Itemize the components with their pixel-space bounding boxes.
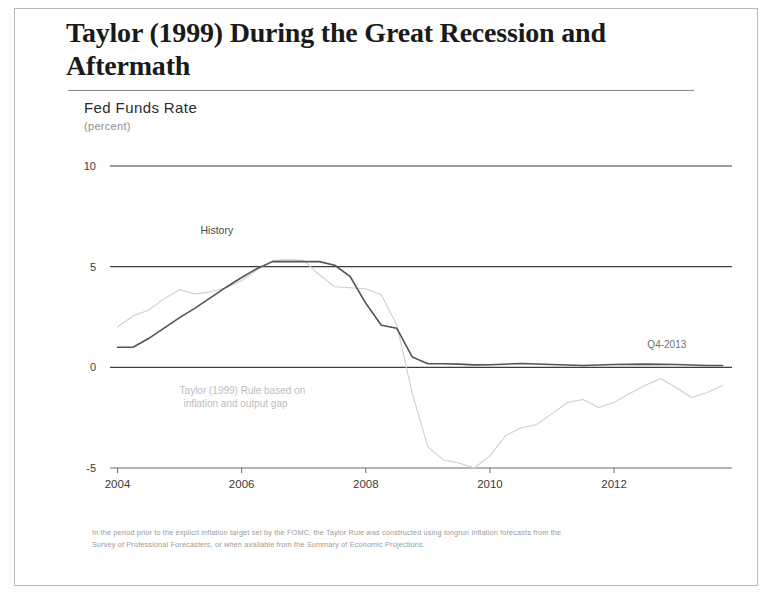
ytick-label-5: 5 (90, 261, 96, 273)
xtick-label-2004: 2004 (105, 478, 131, 490)
xtick-label-2006: 2006 (229, 478, 255, 490)
annotation-history: History (200, 224, 233, 236)
chart-area: 1050-520042006200820102012HistoryTaylor … (60, 150, 740, 520)
annotation-end-label: Q4-2013 (647, 339, 686, 350)
xtick-label-2010: 2010 (477, 478, 503, 490)
footnote-line-2: Survey of Professional Forecasters, or w… (92, 539, 712, 551)
ytick-label-0: 0 (90, 361, 96, 373)
xtick-label-2008: 2008 (353, 478, 379, 490)
annotation-taylor-rule: Taylor (1999) Rule based on (180, 385, 306, 396)
footnote-line-1: In the period prior to the explicit infl… (92, 527, 712, 539)
xtick-label-2012: 2012 (601, 478, 627, 490)
slide-canvas: Taylor (1999) During the Great Recession… (0, 0, 772, 598)
ytick-label--5: -5 (86, 462, 96, 474)
chart-subtitle: (percent) (84, 120, 131, 132)
line-chart: 1050-520042006200820102012HistoryTaylor … (60, 150, 740, 520)
annotation-taylor-rule-line2: inflation and output gap (184, 398, 288, 409)
page-title: Taylor (1999) During the Great Recession… (66, 16, 706, 82)
chart-title: Fed Funds Rate (84, 99, 197, 116)
ytick-label-10: 10 (84, 160, 96, 172)
chart-footnote: In the period prior to the explicit infl… (92, 527, 712, 550)
title-divider (68, 90, 694, 91)
series-line-history (118, 261, 723, 365)
